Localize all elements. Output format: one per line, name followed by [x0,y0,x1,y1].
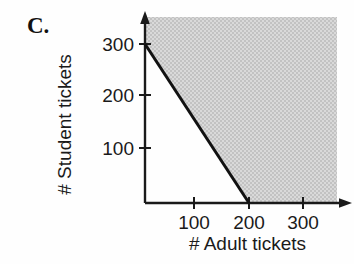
y-tick-label-200: 200 [88,86,134,105]
figure-panel: C. [0,0,354,264]
plot-area: 300 200 100 100 200 300 # Student ticket… [0,0,354,264]
x-tick-label-300: 300 [287,213,319,232]
y-tick-label-100: 100 [88,139,134,158]
x-tick-label-100: 100 [178,213,210,232]
x-tick-label-200: 200 [233,213,265,232]
x-axis-arrow-icon [339,198,352,208]
x-axis-title: # Adult tickets [145,234,350,253]
y-tick-label-300: 300 [88,35,134,54]
shaded-region [145,17,337,203]
y-axis-title: # Student tickets [55,30,74,220]
